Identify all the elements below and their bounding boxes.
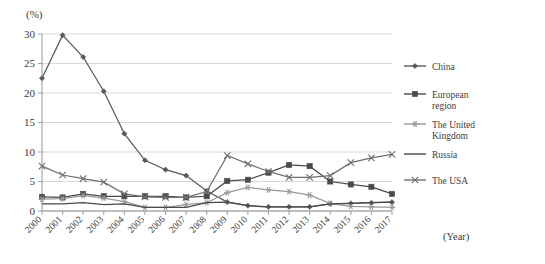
y-tick-label: 20 (24, 87, 36, 99)
y-axis: 051015202530 (24, 28, 42, 217)
x-tick-label: 2005 (126, 214, 147, 235)
chart-canvas: 051015202530 200020012002200320042005200… (0, 0, 545, 264)
legend-item-the-usa[interactable]: The USA (404, 176, 468, 186)
chart-legend: ChinaEuropeanregionThe UnitedKingdomRuss… (404, 62, 475, 186)
y-tick-label: 5 (30, 175, 36, 187)
x-tick-label: 2006 (146, 214, 167, 235)
data-point-marker (39, 76, 44, 81)
x-tick-label: 2008 (188, 214, 209, 235)
x-tick-label: 2017 (373, 214, 394, 235)
x-axis: 2000200120022003200420052006200720082009… (23, 211, 394, 235)
x-tick-label: 2001 (43, 214, 64, 235)
data-point-marker (204, 194, 209, 199)
x-tick-label: 2013 (291, 214, 312, 235)
data-point-marker (245, 185, 252, 191)
legend-label: Russia (432, 150, 458, 160)
legend-label: European (432, 90, 469, 100)
x-tick-label: 2015 (332, 214, 353, 235)
x-tick-label: 2000 (23, 214, 44, 235)
x-tick-label: 2002 (64, 214, 85, 235)
data-point-marker (348, 182, 353, 187)
x-tick-label: 2010 (229, 214, 250, 235)
gridlines (42, 34, 392, 211)
data-point-marker (412, 63, 417, 68)
x-tick-label: 2012 (270, 214, 291, 235)
data-point-marker (412, 121, 419, 127)
legend-label: region (432, 101, 457, 111)
legend-item-china[interactable]: China (404, 62, 455, 72)
x-tick-label: 2011 (250, 214, 270, 234)
data-point-marker (328, 179, 333, 184)
legend-item-the-united-kingdom[interactable]: The UnitedKingdom (404, 120, 475, 141)
data-point-marker (245, 177, 250, 182)
x-tick-label: 2004 (105, 214, 126, 235)
series-the-usa (39, 151, 395, 200)
data-point-marker (389, 205, 396, 211)
data-point-marker (224, 190, 231, 196)
data-point-marker (369, 184, 374, 189)
legend-label: The United (432, 120, 475, 130)
y-tick-label: 25 (24, 57, 36, 69)
series-line (42, 154, 392, 197)
y-axis-unit-label: (%) (26, 8, 43, 21)
x-tick-label: 2014 (311, 214, 332, 235)
x-tick-label: 2003 (85, 214, 106, 235)
legend-label: The USA (432, 176, 468, 186)
y-tick-label: 30 (24, 28, 36, 40)
legend-label: China (432, 62, 455, 72)
data-point-marker (412, 91, 417, 96)
legend-item-european-region[interactable]: Europeanregion (404, 90, 469, 111)
data-point-marker (286, 189, 293, 195)
x-tick-label: 2007 (167, 214, 188, 235)
x-tick-label: 2009 (208, 214, 229, 235)
line-chart: 051015202530 200020012002200320042005200… (0, 0, 545, 264)
data-point-marker (389, 191, 394, 196)
data-point-marker (306, 192, 313, 198)
x-tick-label: 2016 (352, 214, 373, 235)
data-series (39, 33, 396, 211)
legend-label: Kingdom (432, 131, 469, 141)
data-point-marker (265, 187, 272, 193)
legend-item-russia[interactable]: Russia (404, 150, 458, 160)
data-point-marker (163, 167, 168, 172)
series-line (42, 187, 392, 207)
y-tick-label: 10 (24, 146, 36, 158)
x-axis-caption: (Year) (443, 231, 470, 243)
data-point-marker (307, 164, 312, 169)
y-tick-label: 15 (24, 116, 36, 128)
data-point-marker (286, 162, 291, 167)
data-point-marker (224, 152, 230, 158)
data-point-marker (245, 161, 251, 167)
data-point-marker (225, 178, 230, 183)
